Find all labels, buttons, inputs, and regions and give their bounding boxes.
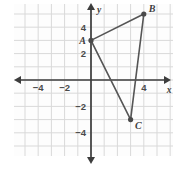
y-tick-label--2: −2 xyxy=(75,101,86,112)
y-tick-label--4: −4 xyxy=(75,127,87,138)
y-tick-label-4: 4 xyxy=(81,22,87,33)
y-axis-label: y xyxy=(96,5,102,15)
x-tick-label-4: 4 xyxy=(141,82,147,93)
x-axis-label: x xyxy=(166,85,172,95)
data-point-B xyxy=(141,11,146,16)
point-label-A: A xyxy=(78,35,86,46)
coordinate-plot-svg: −4−2442−2−4 ABC x y xyxy=(0,0,187,172)
data-point-C xyxy=(128,117,133,122)
point-label-C: C xyxy=(135,120,142,131)
y-tick-label-2: 2 xyxy=(81,48,86,59)
coordinate-plane-figure: −4−2442−2−4 ABC x y xyxy=(0,0,187,172)
data-point-A xyxy=(88,38,93,43)
x-tick-label--2: −2 xyxy=(59,82,70,93)
point-label-B: B xyxy=(148,3,156,14)
x-tick-label--4: −4 xyxy=(33,82,45,93)
